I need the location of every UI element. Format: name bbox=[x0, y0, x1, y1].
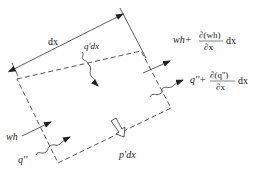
q-outflow-wavy-arrow bbox=[150, 80, 183, 97]
svg-text:dx: dx bbox=[226, 35, 236, 46]
svg-text:∂(q''): ∂(q'') bbox=[210, 70, 228, 80]
control-volume-element bbox=[17, 51, 171, 163]
svg-text:∂(wh): ∂(wh) bbox=[199, 30, 220, 40]
wh-inflow-arrow bbox=[22, 122, 51, 136]
svg-text:∂x: ∂x bbox=[204, 42, 213, 52]
svg-text:wh+: wh+ bbox=[173, 34, 191, 45]
svg-text:∂x: ∂x bbox=[216, 82, 225, 92]
dimension-dx bbox=[12, 8, 146, 76]
control-volume-diagram: dx q'dx wh q'' wh+ ∂(wh) ∂x dx q''+ ∂(q'… bbox=[0, 0, 253, 174]
svg-text:q''+: q''+ bbox=[190, 74, 206, 85]
lateral-inflow-wavy-arrow bbox=[82, 52, 98, 86]
q-outflow-label: q''+ ∂(q'') ∂x dx bbox=[190, 70, 248, 92]
wh-outflow-label: wh+ ∂(wh) ∂x dx bbox=[173, 30, 236, 52]
q-inflow-label: q'' bbox=[18, 154, 28, 165]
dx-label: dx bbox=[48, 36, 58, 47]
svg-text:dx: dx bbox=[238, 75, 248, 86]
lateral-inflow-label: q'dx bbox=[84, 41, 99, 51]
pressure-hollow-arrow bbox=[111, 118, 125, 137]
pressure-label: p'dx bbox=[118, 149, 136, 160]
wh-inflow-label: wh bbox=[6, 131, 18, 142]
